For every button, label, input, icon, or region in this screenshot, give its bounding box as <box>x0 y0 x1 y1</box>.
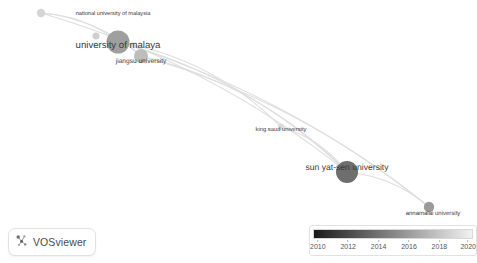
vosviewer-visualization[interactable]: national university of malaysiauniversit… <box>0 0 477 263</box>
legend-tick-labels: 201020122014201620182020 <box>313 240 473 253</box>
edge <box>281 127 347 172</box>
nodes-layer[interactable] <box>37 9 434 212</box>
color-scale-legend: 201020122014201620182020 <box>309 225 477 256</box>
legend-tick-label: 2020 <box>460 243 476 250</box>
legend-tick: 2020 <box>460 240 476 250</box>
legend-tick: 2018 <box>432 240 448 250</box>
legend-tick-mark <box>439 240 440 242</box>
legend-tick: 2016 <box>401 240 417 250</box>
edge <box>41 13 347 172</box>
legend-tick-label: 2018 <box>432 243 448 250</box>
edge <box>141 56 429 207</box>
legend-tick-mark <box>378 240 379 242</box>
edge <box>141 56 347 172</box>
graph-node[interactable] <box>92 32 99 39</box>
legend-tick-label: 2010 <box>310 243 326 250</box>
edges-layer <box>41 13 429 207</box>
legend-tick: 2014 <box>371 240 387 250</box>
graph-node[interactable] <box>336 161 358 183</box>
network-graph[interactable] <box>0 0 477 263</box>
legend-tick: 2012 <box>340 240 356 250</box>
edge <box>118 42 429 207</box>
legend-tick-mark <box>408 240 409 242</box>
legend-tick: 2010 <box>310 240 326 250</box>
graph-node[interactable] <box>134 49 148 63</box>
legend-tick-label: 2012 <box>340 243 356 250</box>
edge <box>347 172 429 207</box>
vosviewer-badge[interactable]: VOSviewer <box>8 228 96 256</box>
vosviewer-label: VOSviewer <box>33 236 86 248</box>
legend-gradient-bar <box>313 229 473 239</box>
graph-node[interactable] <box>107 31 130 54</box>
legend-tick-label: 2014 <box>371 243 387 250</box>
graph-node[interactable] <box>424 202 434 212</box>
legend-tick-mark <box>348 240 349 242</box>
edge <box>41 13 118 42</box>
graph-node[interactable] <box>37 9 45 17</box>
legend-tick-label: 2016 <box>401 243 417 250</box>
edge <box>118 42 347 172</box>
legend-tick-mark <box>317 240 318 242</box>
legend-tick-mark <box>468 240 469 242</box>
graph-node[interactable] <box>278 124 284 130</box>
vosviewer-network-icon <box>15 233 28 251</box>
